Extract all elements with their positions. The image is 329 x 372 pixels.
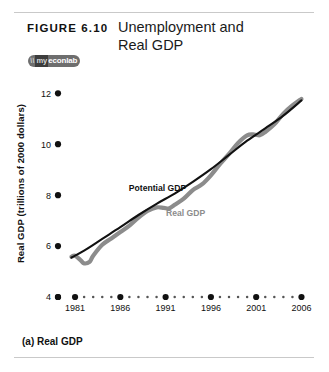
chart-plot-area: 4681012 198119861991199620012006 Potenti… — [0, 60, 329, 325]
x-minor-dot — [201, 296, 204, 299]
x-tick-dot — [253, 294, 259, 300]
figure-caption: (a) Real GDP — [22, 336, 83, 347]
x-tick-label: 1981 — [65, 303, 85, 313]
x-tick-label: 1991 — [156, 303, 176, 313]
x-minor-dot — [282, 296, 285, 299]
x-axis-ticks: 198119861991199620012006 — [55, 294, 312, 313]
x-minor-dot — [246, 296, 249, 299]
figure-header: FIGURE 6.10 \\ my econlab Unemployment a… — [0, 18, 329, 60]
y-tick-label: 8 — [46, 191, 51, 201]
x-tick-dot — [208, 294, 214, 300]
x-minor-dot — [110, 296, 113, 299]
x-minor-dot — [101, 296, 104, 299]
figure-title-line-2: Real GDP — [118, 36, 318, 54]
x-minor-dot — [273, 296, 276, 299]
x-minor-dot — [264, 296, 267, 299]
x-tick-label: 1996 — [201, 303, 221, 313]
series-label: Real GDP — [166, 208, 205, 218]
x-minor-dot — [228, 296, 231, 299]
y-axis-title: Real GDP (trillions of 2000 dollars) — [15, 91, 26, 276]
y-tick-label: 12 — [41, 89, 51, 99]
figure-number: FIGURE 6.10 — [27, 22, 108, 34]
origin-dot — [55, 294, 61, 300]
figure-title-line-1: Unemployment and — [118, 18, 318, 36]
series-label: Potential GDP — [129, 183, 187, 193]
y-axis-ticks: 4681012 — [41, 89, 61, 303]
x-tick-dot — [117, 294, 123, 300]
figure-card: FIGURE 6.10 \\ my econlab Unemployment a… — [0, 0, 329, 372]
y-tick-label: 10 — [41, 140, 51, 150]
y-tick-dot — [55, 243, 61, 249]
series-line — [71, 100, 301, 257]
y-tick-dot — [55, 192, 61, 198]
x-minor-dot — [92, 296, 95, 299]
x-minor-dot — [192, 296, 195, 299]
x-tick-dot — [72, 294, 78, 300]
bottom-divider — [14, 357, 314, 358]
x-minor-dot — [237, 296, 240, 299]
x-minor-dot — [182, 296, 185, 299]
x-minor-dot — [146, 296, 149, 299]
x-tick-label: 2001 — [246, 303, 266, 313]
y-tick-dot — [55, 141, 61, 147]
y-tick-label: 4 — [46, 292, 51, 302]
figure-title: Unemployment and Real GDP — [118, 18, 318, 54]
chart-svg: 4681012 198119861991199620012006 Potenti… — [0, 60, 329, 325]
x-minor-dot — [128, 296, 131, 299]
x-minor-dot — [137, 296, 140, 299]
x-minor-dot — [291, 296, 294, 299]
chart-series-layer — [71, 99, 301, 264]
y-tick-dot — [55, 90, 61, 96]
x-tick-dot — [298, 294, 304, 300]
x-tick-label: 2006 — [291, 303, 311, 313]
x-minor-dot — [83, 296, 86, 299]
y-tick-label: 6 — [46, 241, 51, 251]
x-tick-dot — [163, 294, 169, 300]
x-tick-label: 1986 — [110, 303, 130, 313]
x-minor-dot — [155, 296, 158, 299]
series-line — [71, 99, 301, 264]
x-minor-dot — [173, 296, 176, 299]
x-minor-dot — [219, 296, 222, 299]
top-divider — [14, 12, 314, 13]
